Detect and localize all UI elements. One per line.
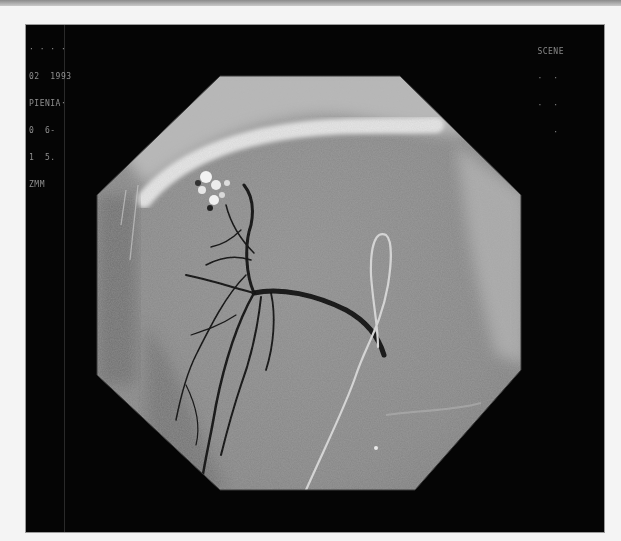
overlay-line: 0 6-	[29, 126, 72, 135]
angiogram-image	[26, 25, 604, 532]
overlay-line: · ·	[537, 101, 564, 110]
scene-info-overlay: SCENE · · · · ·	[537, 29, 564, 155]
overlay-line: ZMM	[29, 180, 72, 189]
image-panel: · · · · 02 1993 PIENIA· 0 6- 1 5. ZMM SC…	[26, 25, 604, 532]
octagonal-field	[86, 65, 536, 505]
patient-info-overlay: · · · · 02 1993 PIENIA· 0 6- 1 5. ZMM	[29, 27, 72, 207]
overlay-line: 02 1993	[29, 72, 72, 81]
overlay-line: ·	[537, 128, 564, 137]
top-border	[0, 0, 621, 6]
overlay-line: · · · ·	[29, 45, 72, 54]
overlay-line: · ·	[537, 74, 564, 83]
overlay-line: PIENIA·	[29, 99, 72, 108]
overlay-line: 1 5.	[29, 153, 72, 162]
overlay-line: SCENE	[537, 47, 564, 56]
